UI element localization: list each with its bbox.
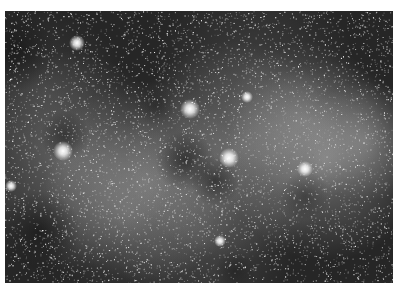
star-field-canvas <box>5 11 393 283</box>
milky-way-photograph <box>5 11 393 283</box>
